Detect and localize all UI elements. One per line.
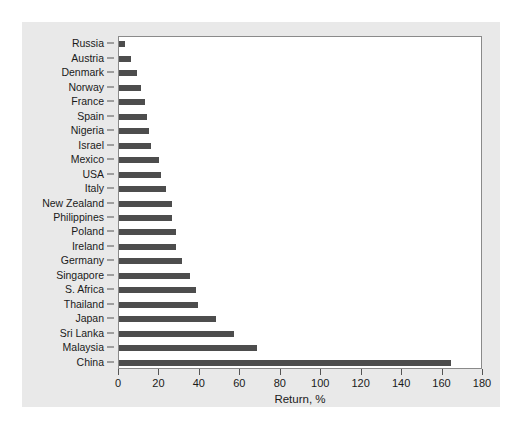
y-axis-tick-label: Mexico: [71, 154, 104, 165]
bar: [119, 244, 176, 250]
y-axis-tick-mark: [107, 332, 114, 333]
x-axis-tick-mark: [239, 369, 240, 375]
bar: [119, 99, 145, 105]
y-axis-tick-label: Ireland: [72, 240, 104, 251]
y-axis-tick-mark: [107, 86, 114, 87]
y-axis-tick-label: Russia: [72, 38, 104, 49]
bar: [119, 287, 196, 293]
y-axis-tick-label: New Zealand: [42, 197, 104, 208]
x-axis-tick-mark: [401, 369, 402, 375]
y-axis-tick-mark: [107, 144, 114, 145]
x-axis-tick-label: 100: [311, 377, 329, 389]
x-axis-tick-label: 180: [473, 377, 491, 389]
y-axis-tick-label: Austria: [71, 52, 104, 63]
bar: [119, 56, 131, 62]
x-axis-tick-label: 20: [152, 377, 164, 389]
y-axis-tick-mark: [107, 72, 114, 73]
bar: [119, 273, 190, 279]
bar: [119, 215, 172, 221]
y-axis-tick-mark: [107, 274, 114, 275]
y-axis-tick-label: Japan: [75, 313, 104, 324]
y-axis-tick-mark: [107, 43, 114, 44]
bar: [119, 229, 176, 235]
x-axis-tick-mark: [361, 369, 362, 375]
x-axis-tick-label: 0: [115, 377, 121, 389]
y-axis-tick-label: France: [71, 96, 104, 107]
y-axis-tick-mark: [107, 260, 114, 261]
y-axis-tick-mark: [107, 318, 114, 319]
x-axis-tick-label: 120: [351, 377, 369, 389]
bar: [119, 114, 147, 120]
y-axis-tick-label: Denmark: [61, 67, 104, 78]
bar: [119, 345, 257, 351]
x-axis-tick-mark: [199, 369, 200, 375]
y-axis-tick-mark: [107, 173, 114, 174]
y-axis-tick-label: Italy: [85, 183, 104, 194]
y-axis-tick-mark: [107, 361, 114, 362]
y-axis-tick-mark: [107, 245, 114, 246]
y-axis-tick-label: Thailand: [64, 298, 104, 309]
x-axis-tick-mark: [320, 369, 321, 375]
bar: [119, 128, 149, 134]
y-axis-tick-label: S. Africa: [65, 284, 104, 295]
y-axis-tick-mark: [107, 130, 114, 131]
y-axis-tick-label: China: [77, 356, 104, 367]
y-axis-tick-label: Spain: [77, 110, 104, 121]
x-axis-ticks: [118, 369, 482, 377]
bar: [119, 186, 166, 192]
bar: [119, 316, 216, 322]
y-axis-tick-mark: [107, 115, 114, 116]
y-axis-tick-label: Israel: [78, 139, 104, 150]
x-axis-tick-labels: 020406080100120140160180: [118, 377, 482, 393]
y-axis-tick-mark: [107, 202, 114, 203]
bar: [119, 302, 198, 308]
plot-area: [118, 36, 482, 369]
y-axis-tick-mark: [107, 159, 114, 160]
y-axis-tick-mark: [107, 347, 114, 348]
y-axis-tick-label: Sri Lanka: [60, 327, 104, 338]
bar: [119, 172, 161, 178]
x-axis-tick-mark: [158, 369, 159, 375]
x-axis-tick-mark: [442, 369, 443, 375]
x-axis-tick-label: 60: [233, 377, 245, 389]
y-axis-tick-label: Singapore: [56, 269, 104, 280]
x-axis-tick-label: 40: [193, 377, 205, 389]
y-axis-tick-mark: [107, 216, 114, 217]
bars-layer: [119, 37, 481, 368]
y-axis-tick-label: Nigeria: [71, 125, 104, 136]
y-axis-tick-mark: [107, 289, 114, 290]
y-axis-tick-mark: [107, 188, 114, 189]
y-axis-tick-label: Germany: [61, 255, 104, 266]
x-axis-tick-label: 140: [392, 377, 410, 389]
y-axis-tick-label: Norway: [68, 81, 104, 92]
x-axis-tick-mark: [118, 369, 119, 375]
chart-figure: RussiaAustriaDenmarkNorwayFranceSpainNig…: [0, 0, 512, 429]
y-axis-tick-mark: [107, 101, 114, 102]
x-axis-tick-label: 160: [432, 377, 450, 389]
y-axis-tick-label: Malaysia: [63, 342, 104, 353]
bar: [119, 360, 451, 366]
y-axis-tick-label: Poland: [71, 226, 104, 237]
bar: [119, 70, 137, 76]
y-axis-tick-mark: [107, 57, 114, 58]
y-axis-tick-label: Philippines: [53, 211, 104, 222]
y-axis-tick-mark: [107, 231, 114, 232]
y-axis-labels: RussiaAustriaDenmarkNorwayFranceSpainNig…: [22, 36, 114, 369]
bar: [119, 331, 234, 337]
bar: [119, 157, 159, 163]
y-axis-tick-label: USA: [82, 168, 104, 179]
bar: [119, 41, 125, 47]
x-axis-tick-mark: [482, 369, 483, 375]
x-axis-tick-label: 80: [274, 377, 286, 389]
y-axis-tick-mark: [107, 303, 114, 304]
x-axis-title: Return, %: [118, 393, 482, 405]
x-axis-tick-mark: [280, 369, 281, 375]
bar: [119, 258, 182, 264]
bar: [119, 143, 151, 149]
bar: [119, 85, 141, 91]
bar: [119, 201, 172, 207]
